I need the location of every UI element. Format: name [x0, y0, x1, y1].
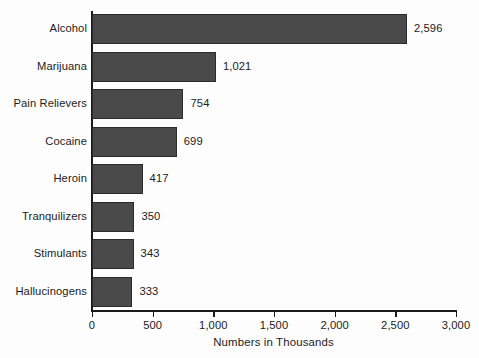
bar-row: Tranquilizers350: [0, 202, 479, 232]
bar-value-label: 333: [139, 285, 158, 297]
bar-value-label: 343: [141, 247, 160, 259]
bar-value-label: 417: [150, 172, 169, 184]
x-axis-title: Numbers in Thousands: [0, 336, 479, 348]
category-label: Marijuana: [0, 60, 87, 72]
x-tick-mark: [213, 311, 214, 317]
x-tick-mark: [274, 311, 275, 317]
x-tick-mark: [456, 311, 457, 317]
x-axis-title-text: Numbers in Thousands: [213, 336, 334, 348]
x-tick-mark: [92, 311, 93, 317]
bar: [92, 164, 143, 194]
bar: [92, 239, 134, 269]
bar-row: Stimulants343: [0, 239, 479, 269]
category-label: Heroin: [0, 172, 87, 184]
bar-row: Marijuana1,021: [0, 52, 479, 82]
x-tick-mark: [335, 311, 336, 317]
bar-row: Alcohol2,596: [0, 14, 479, 44]
bar: [92, 202, 134, 232]
x-tick-label: 3,000: [442, 319, 471, 331]
x-tick-mark: [153, 311, 154, 317]
bar: [92, 127, 177, 157]
bar-value-label: 699: [184, 135, 203, 147]
bar-row: Heroin417: [0, 164, 479, 194]
bar-value-label: 1,021: [223, 60, 252, 72]
x-tick-label: 2,000: [320, 319, 349, 331]
category-label: Cocaine: [0, 135, 87, 147]
x-tick-label: 0: [89, 319, 95, 331]
bar-row: Pain Relievers754: [0, 89, 479, 119]
bar: [92, 277, 132, 307]
category-label: Stimulants: [0, 247, 87, 259]
bar-chart: Alcohol2,596Marijuana1,021Pain Relievers…: [0, 0, 479, 358]
category-label: Pain Relievers: [0, 97, 87, 109]
bars-layer: Alcohol2,596Marijuana1,021Pain Relievers…: [0, 0, 479, 358]
bar: [92, 89, 183, 119]
bar-value-label: 754: [190, 97, 209, 109]
x-tick-label: 2,500: [381, 319, 410, 331]
bar: [92, 14, 407, 44]
category-label: Tranquilizers: [0, 210, 87, 222]
x-tick-label: 1,500: [260, 319, 289, 331]
category-label: Hallucinogens: [0, 285, 87, 297]
x-tick-mark: [395, 311, 396, 317]
bar-row: Hallucinogens333: [0, 277, 479, 307]
bar-value-label: 2,596: [414, 22, 443, 34]
bar: [92, 52, 216, 82]
bar-value-label: 350: [141, 210, 160, 222]
x-tick-label: 500: [143, 319, 162, 331]
bar-row: Cocaine699: [0, 127, 479, 157]
category-label: Alcohol: [0, 22, 87, 34]
x-tick-label: 1,000: [199, 319, 228, 331]
